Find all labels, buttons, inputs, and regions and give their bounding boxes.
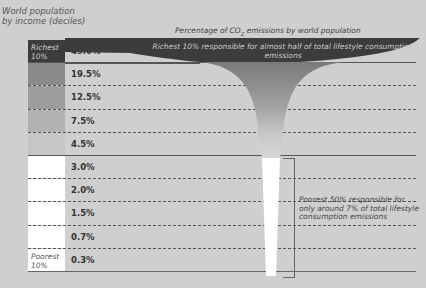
decile-swatch: Poorest 10% (28, 249, 65, 271)
y-axis-label-line2: by income (deciles) (2, 16, 85, 26)
decile-row: 12.5% (28, 86, 416, 109)
chart-title: Percentage of CO2 emissions by world pop… (175, 26, 361, 37)
percentage-label: 2.0% (71, 185, 95, 195)
poorest-50-bracket (283, 158, 295, 278)
y-axis-label: World population by income (deciles) (2, 6, 85, 26)
decile-swatch (28, 156, 65, 178)
title-prefix: Percentage of CO (175, 26, 241, 35)
decile-swatch (28, 179, 65, 201)
percentage-label: 7.5% (71, 116, 95, 126)
decile-swatch (28, 110, 65, 132)
decile-row: 19.5% (28, 63, 416, 86)
decile-row: 4.5% (28, 133, 416, 156)
decile-swatch (28, 202, 65, 224)
decile-row: Poorest 10%0.3% (28, 249, 416, 272)
decile-swatch: Richest 10% (28, 40, 65, 62)
decile-rows: Richest 10%49.0%19.5%12.5%7.5%4.5%3.0%2.… (28, 40, 416, 272)
percentage-label: 4.5% (71, 139, 95, 149)
percentage-label: 19.5% (71, 69, 101, 79)
decile-row: 7.5% (28, 110, 416, 133)
decile-swatch (28, 63, 65, 85)
percentage-label: 3.0% (71, 162, 95, 172)
percentage-label: 0.7% (71, 232, 95, 242)
richest-annotation: Richest 10% responsible for almost half … (145, 42, 421, 60)
decile-swatch (28, 133, 65, 155)
percentage-label: 0.3% (71, 255, 95, 265)
percentage-label: 12.5% (71, 92, 101, 102)
poorest-annotation: Poorest 50% responsible for only around … (299, 196, 419, 222)
decile-row: 3.0% (28, 156, 416, 179)
y-axis-label-line1: World population (2, 6, 85, 16)
percentage-label: 49.0% (71, 46, 101, 56)
decile-swatch (28, 226, 65, 248)
title-suffix: emissions by world population (244, 26, 360, 35)
decile-row: 0.7% (28, 226, 416, 249)
percentage-label: 1.5% (71, 208, 95, 218)
decile-swatch (28, 86, 65, 108)
